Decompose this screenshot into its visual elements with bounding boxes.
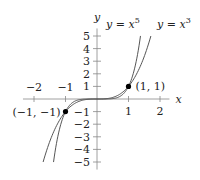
x-tick-label: −1 xyxy=(57,81,73,94)
x-tick-label: −2 xyxy=(26,81,42,94)
point-label: (1, 1) xyxy=(136,80,166,93)
labels: −2−112−5−4−3−2−112345xyy = x5y = x3(1, 1… xyxy=(12,11,190,169)
point-label: (−1, −1) xyxy=(12,106,60,119)
y-tick-label: −4 xyxy=(74,143,90,156)
y-tick-label: 3 xyxy=(83,55,90,68)
chart-plot: −2−112−5−4−3−2−112345xyy = x5y = x3(1, 1… xyxy=(0,0,200,180)
y-tick-label: −1 xyxy=(74,106,90,119)
y-tick-label: −5 xyxy=(74,156,90,169)
y-tick-label: 4 xyxy=(83,43,90,56)
intersection-point xyxy=(63,109,68,114)
y-axis-label: y xyxy=(93,11,101,24)
y-tick-label: 2 xyxy=(83,68,90,81)
y-tick-label: −2 xyxy=(74,118,90,131)
x-tick-label: 1 xyxy=(125,105,132,118)
x-tick-label: 2 xyxy=(157,105,164,118)
x-axis-label: x xyxy=(175,93,182,106)
intersection-point xyxy=(126,84,131,89)
y-tick-label: −3 xyxy=(74,131,90,144)
series-label-x3: y = x3 xyxy=(156,16,191,31)
series-label-x5: y = x5 xyxy=(105,16,140,31)
y-tick-label: 1 xyxy=(83,80,90,93)
y-tick-label: 5 xyxy=(83,30,90,43)
